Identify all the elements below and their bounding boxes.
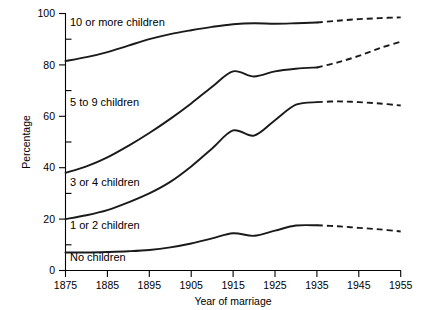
y-axis-major-ticks [59,14,66,271]
projection-3-or-4-children [317,101,401,105]
curve-10-or-more-children [66,23,317,62]
line-chart: 100 80 60 40 20 0 1875 1885 1895 1905 19… [0,0,433,310]
curve-5-to-9-children [66,67,317,172]
series-label-10-or-more-children: 10 or more children [70,16,165,28]
x-tick-label-1925: 1925 [263,279,287,291]
y-tick-label-80: 80 [43,59,55,71]
x-tick-label-1895: 1895 [138,279,162,291]
series-label-no-children: No children [70,251,126,263]
x-tick-label-1955: 1955 [389,279,413,291]
y-tick-label-100: 100 [37,7,55,19]
x-tick-label-1935: 1935 [305,279,329,291]
projection-5-to-9-children [317,42,401,68]
x-tick-label-1875: 1875 [54,279,78,291]
x-tick-label-1945: 1945 [347,279,371,291]
series-label-5-to-9-children: 5 to 9 children [70,96,139,108]
y-axis-title: Percentage [20,115,32,169]
projection-10-or-more-children [317,17,401,22]
curve-3-or-4-children [66,102,317,219]
x-tick-label-1915: 1915 [221,279,245,291]
y-tick-label-60: 60 [43,110,55,122]
y-tick-label-40: 40 [43,161,55,173]
x-tick-label-1905: 1905 [180,279,204,291]
projection-1-or-2-children [317,225,401,231]
series-label-3-or-4-children: 3 or 4 children [70,176,140,188]
x-tick-label-1885: 1885 [96,279,120,291]
y-tick-label-20: 20 [43,213,55,225]
x-axis-ticks [66,271,401,278]
y-tick-label-0: 0 [49,264,55,276]
series-label-1-or-2-children: 1 or 2 children [70,219,140,231]
series-curves [66,17,401,252]
y-axis-minor-ticks [66,39,72,245]
chart-container: 100 80 60 40 20 0 1875 1885 1895 1905 19… [0,0,433,310]
x-axis-title: Year of marriage [194,295,271,307]
